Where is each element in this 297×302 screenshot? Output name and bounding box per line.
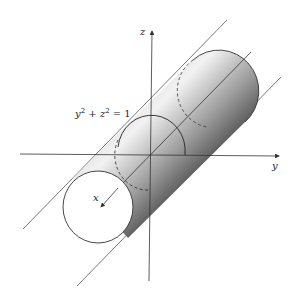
cylinder-diagram — [0, 0, 297, 302]
y-axis-label: y — [272, 161, 278, 171]
x-axis-label: x — [93, 193, 99, 203]
z-axis-label: z — [140, 27, 145, 37]
equation-label: y2 + z2 = 1 — [75, 108, 131, 119]
front-cap — [63, 171, 133, 243]
